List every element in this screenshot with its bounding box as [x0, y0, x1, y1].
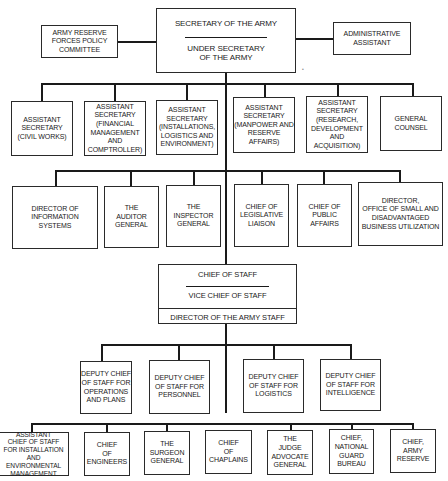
connector [350, 344, 352, 359]
connector [193, 170, 195, 186]
box-label: ASSISTANT SECRETARY (RESEARCH, DEVELOPME… [311, 99, 363, 151]
connector [178, 344, 180, 360]
connector [186, 83, 188, 101]
box-label: DEPUTY CHIEF OF STAFF FOR PERSONNEL [154, 374, 204, 400]
box-label: DEPUTY CHIEF OF STAFF FOR OPERATIONS AND… [81, 370, 131, 404]
director-army-staff-title: DIRECTOR OF THE ARMY STAFF [170, 314, 284, 323]
box-label: CHIEF OF CHAPLAINS [209, 439, 248, 465]
box-label: GENERAL COUNSEL [394, 115, 427, 132]
box-label: ARMY RESERVE FORCES POLICY COMMITTEE [52, 29, 108, 55]
connector [295, 38, 333, 40]
connector [55, 170, 57, 187]
connector [225, 72, 227, 413]
dcs-intelligence-box: DEPUTY CHIEF OF STAFF FOR INTELLIGENCE [320, 359, 381, 411]
box-label: CHIEF OF PUBLIC AFFAIRS [309, 203, 341, 229]
divider [185, 37, 268, 38]
asa-civil-works-box: ASSISTANT SECRETARY (CIVIL WORKS) [11, 101, 73, 156]
general-counsel-box: GENERAL COUNSEL [380, 96, 442, 151]
box-label: THE JUDGE ADVOCATE GENERAL [271, 435, 308, 469]
box-label: DIRECTOR OF INFORMATION SYSTEMS [31, 205, 78, 231]
connector [130, 170, 132, 186]
connector [101, 344, 351, 346]
chief-of-staff-box: CHIEF OF STAFF VICE CHIEF OF STAFF DIREC… [158, 264, 297, 324]
chief-army-reserve-box: CHIEF, ARMY RESERVE [390, 429, 436, 473]
chief-of-staff-title: CHIEF OF STAFF [198, 271, 257, 280]
secretary-title: SECRETARY OF THE ARMY [175, 20, 277, 29]
asa-installations-logistics-box: ASSISTANT SECRETARY (INSTALLATIONS, LOGI… [156, 100, 218, 155]
connector [41, 83, 43, 101]
connector [117, 41, 157, 43]
connector [55, 170, 401, 172]
box-label: THE INSPECTOR GENERAL [174, 203, 214, 229]
asa-manpower-reserve-affairs-box: ASSISTANT SECRETARY (MANPOWER AND RESERV… [233, 97, 295, 153]
dcs-personnel-box: DEPUTY CHIEF OF STAFF FOR PERSONNEL [149, 360, 210, 414]
chief-legislative-liaison-box: CHIEF OF LEGISLATIVE LIAISON [234, 184, 289, 247]
connector [31, 423, 414, 425]
connector [41, 83, 413, 85]
box-label: ADMINISTRATIVE ASSISTANT [344, 30, 401, 47]
box-label: ASSISTANT CHIEF OF STAFF FOR INSTALLATIO… [0, 431, 68, 478]
chief-national-guard-bureau-box: CHIEF, NATIONAL GUARD BUREAU [329, 429, 374, 474]
director-small-business-box: DIRECTOR, OFFICE OF SMALL AND DISADVANTA… [358, 182, 443, 246]
vice-chief-of-staff-title: VICE CHIEF OF STAFF [189, 292, 267, 301]
connector [264, 83, 266, 98]
judge-advocate-general-box: THE JUDGE ADVOCATE GENERAL [267, 430, 313, 475]
auditor-general-box: THE AUDITOR GENERAL [104, 186, 159, 248]
administrative-assistant-box: ADMINISTRATIVE ASSISTANT [333, 22, 411, 55]
under-secretary-title: UNDER SECRETARY OF THE ARMY [187, 44, 264, 62]
box-label: DEPUTY CHIEF OF STAFF FOR INTELLIGENCE [325, 372, 375, 398]
box-label: DEPUTY CHIEF OF STAFF FOR LOGISTICS [248, 373, 298, 399]
connector [114, 83, 116, 101]
box-label: CHIEF, NATIONAL GUARD BUREAU [335, 434, 369, 468]
divider [186, 286, 268, 287]
box-label: THE SURGEON GENERAL [150, 440, 185, 466]
director-information-systems-box: DIRECTOR OF INFORMATION SYSTEMS [12, 186, 98, 249]
connector [273, 344, 275, 359]
box-label: ASSISTANT SECRETARY (FINANCIAL MANAGEMEN… [85, 103, 145, 155]
scan-mark: • [302, 66, 304, 72]
connector [166, 423, 168, 431]
asa-research-development-acquisition-box: ASSISTANT SECRETARY (RESEARCH, DEVELOPME… [306, 96, 368, 153]
secretary-of-the-army-box: SECRETARY OF THE ARMY UNDER SECRETARY OF… [156, 8, 296, 73]
surgeon-general-box: THE SURGEON GENERAL [144, 431, 190, 475]
dcs-logistics-box: DEPUTY CHIEF OF STAFF FOR LOGISTICS [243, 359, 304, 413]
box-label: DIRECTOR, OFFICE OF SMALL AND DISADVANTA… [362, 197, 440, 231]
box-label: ASSISTANT SECRETARY (MANPOWER AND RESERV… [234, 104, 293, 147]
connector [106, 423, 108, 432]
connector [323, 170, 325, 185]
chief-of-engineers-box: CHIEF OF ENGINEERS [84, 432, 130, 476]
box-label: THE AUDITOR GENERAL [115, 204, 148, 230]
dcs-operations-plans-box: DEPUTY CHIEF OF STAFF FOR OPERATIONS AND… [80, 361, 132, 414]
box-label: CHIEF OF LEGISLATIVE LIAISON [240, 203, 283, 229]
box-label: CHIEF, ARMY RESERVE [397, 438, 430, 464]
box-label: ASSISTANT SECRETARY (INSTALLATIONS, LOGI… [159, 106, 215, 149]
acs-installation-environmental-box: ASSISTANT CHIEF OF STAFF FOR INSTALLATIO… [0, 432, 69, 476]
inspector-general-box: THE INSPECTOR GENERAL [166, 185, 221, 247]
box-label: CHIEF OF ENGINEERS [87, 441, 127, 467]
divider [159, 308, 296, 309]
connector [101, 344, 103, 361]
connector [261, 170, 263, 185]
connector [412, 83, 414, 97]
asa-financial-management-box: ASSISTANT SECRETARY (FINANCIAL MANAGEMEN… [84, 101, 146, 156]
box-label: ASSISTANT SECRETARY (CIVIL WORKS) [18, 116, 67, 142]
chief-of-chaplains-box: CHIEF OF CHAPLAINS [205, 430, 252, 474]
chief-public-affairs-box: CHIEF OF PUBLIC AFFAIRS [297, 184, 352, 247]
army-reserve-forces-policy-committee-box: ARMY RESERVE FORCES POLICY COMMITTEE [41, 25, 118, 58]
